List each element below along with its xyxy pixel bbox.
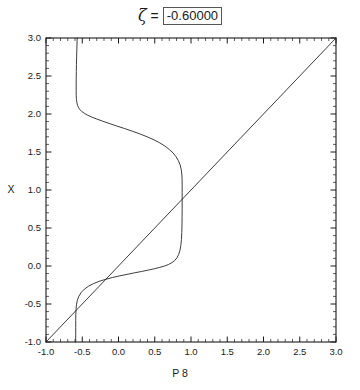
y-axis-label: X <box>7 183 14 195</box>
y-tick-label: 0.5 <box>28 222 41 233</box>
x-tick-label: -1.0 <box>38 346 54 357</box>
y-tick-label: 0.0 <box>28 260 41 271</box>
series-identity-line <box>46 38 336 342</box>
y-tick-label: -0.5 <box>25 298 41 309</box>
x-tick-label: 1.0 <box>184 346 197 357</box>
chart-svg: -1.0-0.50.00.51.01.52.02.53.0 -1.0-0.50.… <box>0 0 360 390</box>
x-tick-label: 3.0 <box>329 346 342 357</box>
x-axis-tick-labels: -1.0-0.50.00.51.01.52.02.53.0 <box>38 346 343 357</box>
x-tick-label: 0.5 <box>148 346 161 357</box>
y-tick-label: 1.0 <box>28 184 41 195</box>
data-series-layer <box>46 38 336 342</box>
y-tick-label: -1.0 <box>25 336 41 347</box>
x-tick-label: 2.0 <box>257 346 270 357</box>
plot-figure: ζ = -0.60000 -1.0-0.50.00.51.01.52.02.53… <box>0 0 360 390</box>
x-axis-label: P 8 <box>172 367 188 379</box>
y-tick-label: 2.5 <box>28 70 41 81</box>
y-axis-tick-labels: -1.0-0.50.00.51.01.52.02.53.0 <box>25 32 41 347</box>
x-tick-label: -0.5 <box>74 346 90 357</box>
series-map-curve <box>76 38 182 342</box>
y-tick-label: 2.0 <box>28 108 41 119</box>
x-tick-label: 1.5 <box>221 346 234 357</box>
y-tick-label: 1.5 <box>28 146 41 157</box>
x-tick-label: 2.5 <box>293 346 306 357</box>
y-tick-label: 3.0 <box>28 32 41 43</box>
x-tick-label: 0.0 <box>112 346 125 357</box>
